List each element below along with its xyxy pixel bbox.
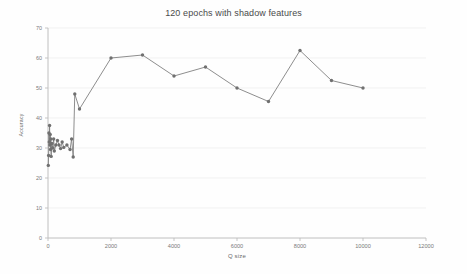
y-tick-label: 30: [26, 145, 42, 151]
chart-figure: 120 epochs with shadow features 01020304…: [0, 0, 467, 274]
axis-lines: [48, 28, 426, 238]
tick-marks: [45, 28, 426, 241]
x-tick-label: 8000: [280, 243, 320, 249]
gridlines: [48, 28, 426, 208]
y-tick-label: 50: [26, 85, 42, 91]
x-axis-title: Q size: [48, 253, 426, 259]
x-tick-label: 12000: [406, 243, 446, 249]
y-tick-label: 0: [26, 235, 42, 241]
y-tick-label: 40: [26, 115, 42, 121]
y-axis-title: Accuracy: [18, 95, 24, 155]
x-tick-label: 2000: [91, 243, 131, 249]
y-tick-label: 60: [26, 55, 42, 61]
y-tick-label: 70: [26, 25, 42, 31]
y-tick-label: 20: [26, 175, 42, 181]
x-tick-label: 10000: [343, 243, 383, 249]
x-tick-label: 6000: [217, 243, 257, 249]
x-tick-label: 0: [28, 243, 68, 249]
y-tick-label: 10: [26, 205, 42, 211]
plot-area: [0, 0, 467, 274]
x-tick-label: 4000: [154, 243, 194, 249]
